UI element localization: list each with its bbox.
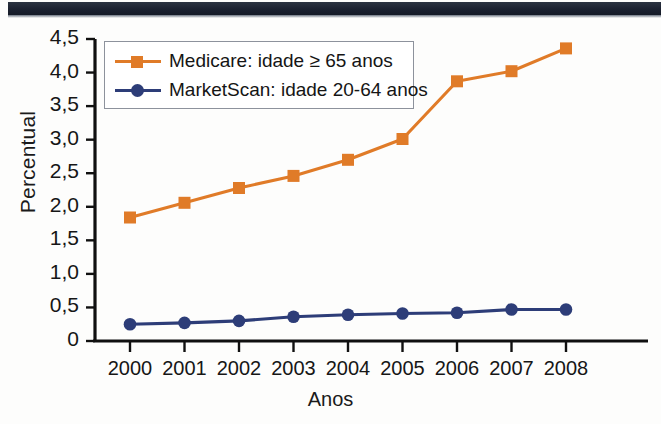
legend-line-circle-marker-icon (115, 81, 161, 99)
legend-label-marketscan: MarketScan: idade 20-64 anos (169, 79, 428, 101)
x-tick-label: 2004 (317, 357, 379, 380)
y-tick-label: 4,0 (17, 59, 79, 83)
x-tick-label: 2008 (535, 357, 597, 380)
series-marketscan (124, 303, 573, 330)
y-tick-label: 4,5 (17, 25, 79, 49)
y-tick-label: 0 (17, 327, 79, 351)
y-tick-label: 1,0 (17, 260, 79, 284)
x-tick-label: 2003 (263, 357, 325, 380)
legend-line-square-marker-icon (115, 52, 161, 70)
x-tick-label: 2002 (208, 357, 270, 380)
x-axis-title: Anos (0, 388, 661, 411)
chart-legend: Medicare: idade ≥ 65 anos MarketScan: id… (104, 41, 414, 109)
x-tick-label: 2005 (372, 357, 434, 380)
plot-area: 00,51,01,52,02,53,03,54,04,5 20002001200… (0, 0, 661, 424)
x-tick-label: 2006 (426, 357, 488, 380)
y-axis-title: Percentual (16, 82, 40, 242)
x-tick-label: 2000 (99, 357, 161, 380)
legend-item-medicare: Medicare: idade ≥ 65 anos (115, 46, 393, 76)
x-tick-label: 2001 (154, 357, 216, 380)
chart-figure: 00,51,01,52,02,53,03,54,04,5 20002001200… (0, 0, 661, 424)
y-tick-label: 0,5 (17, 293, 79, 317)
x-tick-label: 2007 (481, 357, 543, 380)
legend-label-medicare: Medicare: idade ≥ 65 anos (169, 50, 393, 72)
legend-item-marketscan: MarketScan: idade 20-64 anos (115, 75, 428, 105)
